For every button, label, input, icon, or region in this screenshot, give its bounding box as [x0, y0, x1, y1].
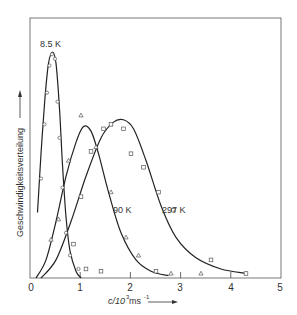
triangle-marker: [199, 271, 203, 275]
circle-marker: [68, 254, 71, 257]
circle-marker: [48, 64, 51, 67]
square-marker: [72, 242, 76, 246]
x-tick-4: 4: [228, 282, 234, 293]
y-axis-label: Geschwindigkeitsverteilung: [15, 90, 25, 237]
x-axis-label: c/10 3 ms -1: [108, 294, 178, 306]
square-marker: [99, 269, 103, 273]
circle-marker: [53, 57, 56, 60]
arrow-right-icon: [172, 300, 178, 304]
square-marker: [244, 272, 248, 276]
plot-frame: [30, 18, 281, 278]
square-marker: [79, 195, 83, 199]
triangle-marker: [109, 190, 113, 194]
circle-marker: [43, 123, 46, 126]
circle-marker: [39, 177, 42, 180]
circle-marker: [50, 53, 53, 56]
circle-marker: [56, 100, 59, 103]
svg-text:Geschwindigkeitsverteilung: Geschwindigkeitsverteilung: [15, 128, 25, 237]
circle-marker: [61, 186, 64, 189]
x-tick-3: 3: [177, 282, 183, 293]
triangle-marker: [169, 271, 173, 275]
x-tick-labels: 0 1 2 3 4 5: [28, 282, 283, 293]
svg-text:ms: ms: [129, 296, 141, 306]
triangle-marker: [79, 113, 83, 117]
square-marker: [109, 123, 113, 127]
circle-marker: [45, 91, 48, 94]
square-marker: [157, 190, 161, 194]
label-90k: 90 K: [113, 205, 132, 215]
arrow-up-icon: [18, 90, 22, 97]
square-marker: [209, 258, 213, 262]
velocity-distribution-chart: 0 1 2 3 4 5 c/10 3 ms -1 Geschwindigkeit…: [0, 0, 297, 315]
curve-90-k: [36, 126, 169, 278]
curve-297-k: [41, 119, 246, 278]
label-297k: 297 K: [162, 205, 186, 215]
triangle-marker: [124, 235, 128, 239]
svg-text:-1: -1: [144, 294, 150, 300]
label-8-5k: 8.5 K: [40, 39, 61, 49]
circle-marker: [64, 231, 67, 234]
curves: [36, 52, 246, 278]
svg-text:c/10: c/10: [108, 296, 125, 306]
x-tick-2: 2: [127, 282, 133, 293]
x-tick-1: 1: [77, 282, 83, 293]
square-marker: [154, 269, 158, 273]
square-marker: [129, 152, 133, 156]
x-tick-5: 5: [277, 282, 283, 293]
data-markers: [39, 53, 247, 276]
triangle-marker: [136, 253, 140, 257]
circle-marker: [77, 267, 80, 270]
square-marker: [89, 150, 93, 154]
square-marker: [102, 127, 106, 131]
square-marker: [122, 127, 126, 131]
circle-marker: [58, 136, 61, 139]
square-marker: [142, 165, 146, 169]
x-tick-0: 0: [28, 282, 34, 293]
square-marker: [84, 267, 88, 271]
